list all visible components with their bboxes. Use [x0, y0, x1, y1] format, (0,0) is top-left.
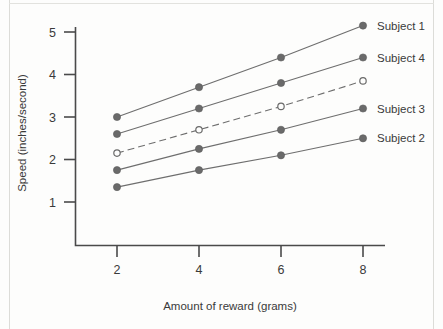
x-tick-label-6: 6	[278, 263, 285, 277]
data-point	[359, 22, 366, 29]
series-label-subject-4: Subject 4	[377, 52, 426, 64]
data-point	[277, 54, 284, 61]
x-tick-label-2: 2	[114, 263, 121, 277]
data-point	[278, 103, 284, 109]
data-point	[195, 84, 202, 91]
data-point	[359, 135, 366, 142]
series-line	[117, 138, 363, 187]
series-label-subject-1: Subject 1	[377, 20, 425, 32]
data-point	[113, 167, 120, 174]
series-subject-3	[113, 105, 366, 174]
x-axis-ticks	[117, 246, 363, 258]
series-line	[117, 81, 363, 153]
y-tick-label-1: 1	[49, 196, 56, 210]
data-point	[359, 105, 366, 112]
y-axis-ticks	[64, 32, 76, 202]
series-label-subject-2: Subject 2	[377, 132, 425, 144]
data-point	[277, 79, 284, 86]
series-line	[117, 26, 363, 117]
series-label-layer: Subject 1Subject 4Subject 3Subject 2	[377, 20, 426, 145]
data-point	[195, 105, 202, 112]
y-tick-label-2: 2	[49, 153, 56, 167]
series-label-subject-3: Subject 3	[377, 103, 425, 115]
data-point	[114, 150, 120, 156]
data-point	[113, 113, 120, 120]
series-layer	[113, 22, 366, 191]
data-point	[359, 54, 366, 61]
y-tick-label-5: 5	[49, 26, 56, 40]
data-point	[277, 126, 284, 133]
x-tick-label-4: 4	[196, 263, 203, 277]
x-tick-label-8: 8	[360, 263, 367, 277]
x-axis-title: Amount of reward (grams)	[163, 300, 297, 312]
line-chart: 5 4 3 2 1 2 4 6 8 Amount of reward (gram…	[0, 0, 443, 329]
chart-axes	[76, 27, 386, 246]
series-subject-1	[113, 22, 366, 121]
data-point	[196, 127, 202, 133]
data-point	[195, 167, 202, 174]
data-point	[360, 78, 366, 84]
data-point	[277, 152, 284, 159]
data-point	[195, 145, 202, 152]
y-tick-label-4: 4	[49, 68, 56, 82]
y-tick-label-3: 3	[49, 111, 56, 125]
figure-page: 5 4 3 2 1 2 4 6 8 Amount of reward (gram…	[0, 0, 443, 329]
y-axis-title: Speed (inches/second)	[16, 74, 28, 192]
data-point	[113, 184, 120, 191]
series-line	[117, 58, 363, 135]
data-point	[113, 130, 120, 137]
series-subject-4	[113, 54, 366, 138]
